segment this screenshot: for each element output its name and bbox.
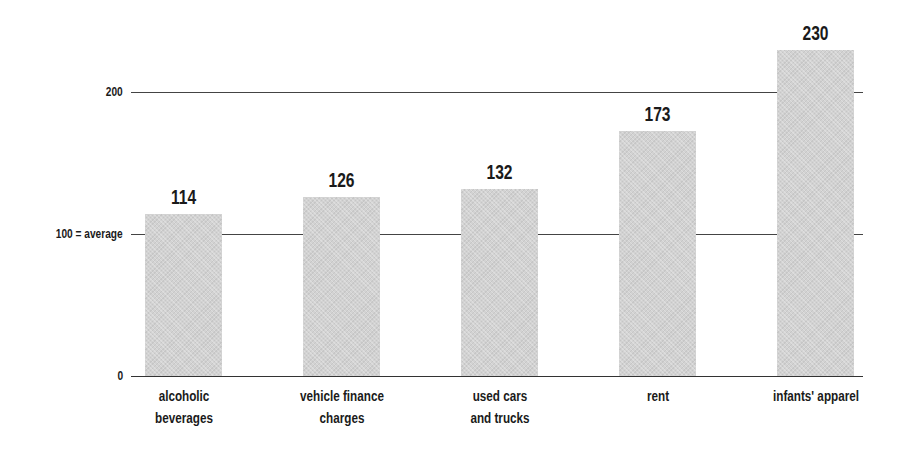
category-label: alcoholic beverages <box>122 385 247 429</box>
category-label: used cars and trucks <box>438 385 563 429</box>
bar-infants-apparel <box>777 50 854 376</box>
gridline-200 <box>131 92 863 93</box>
category-label: rent <box>596 385 721 407</box>
bar-alcoholic-beverages <box>145 214 222 376</box>
bar-chart: 200 100 = average 0 114 alcoholic bevera… <box>0 0 903 453</box>
bar-vehicle-finance-charges <box>303 197 380 376</box>
value-label: 114 <box>153 186 213 209</box>
value-label: 173 <box>627 103 687 126</box>
y-tick-200: 200 <box>106 84 123 99</box>
category-label: vehicle finance charges <box>280 385 405 429</box>
bar-rent <box>619 131 696 376</box>
category-label: infants' apparel <box>754 385 879 407</box>
value-label: 230 <box>785 22 845 45</box>
value-label: 132 <box>469 161 529 184</box>
y-tick-100-average: 100 = average <box>56 226 123 241</box>
bar-used-cars-and-trucks <box>461 189 538 376</box>
y-tick-0: 0 <box>117 368 123 383</box>
value-label: 126 <box>311 169 371 192</box>
baseline-0 <box>131 376 863 377</box>
